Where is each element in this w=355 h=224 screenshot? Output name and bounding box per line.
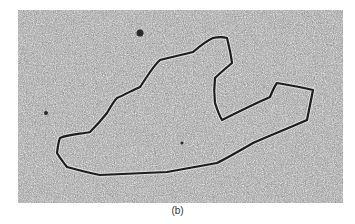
particle-blob (44, 111, 48, 115)
granular-background (18, 10, 343, 203)
particle-blob (137, 30, 144, 37)
particle-blob (181, 142, 184, 145)
panel-label: (b) (0, 205, 355, 216)
micrograph-image (18, 10, 343, 203)
figure-panel: (b) (0, 0, 355, 224)
dna-micrograph (18, 10, 343, 203)
